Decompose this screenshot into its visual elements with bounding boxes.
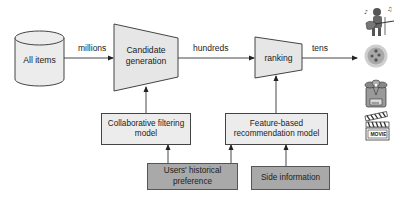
svg-text:♪: ♪ [364,8,368,15]
side-information-label: Side information [261,173,320,183]
musician-icon: ♪ ♫ [364,5,394,36]
users-history-line1: Users' historical [164,166,222,176]
collaborative-filtering-line1: Collaborative filtering [108,119,184,129]
food-dish-icon [365,45,388,68]
candidate-generation-label: Candidate generation [114,45,178,67]
svg-text:ooo: ooo [372,100,380,105]
feature-based-line1: Feature-based [234,119,320,129]
users-history-line2: preference [164,177,222,187]
candidate-generation-line2: generation [114,56,178,67]
ranking-label: ranking [255,53,302,64]
svg-text:♫: ♫ [387,5,392,12]
shopping-bag-icon: ooo [365,80,387,107]
collaborative-filtering-box: Collaborative filtering model [101,113,191,145]
users-history-box: Users' historical preference [147,163,238,190]
edge-label-millions: millions [78,43,106,53]
feature-based-box: Feature-based recommendation model [225,113,328,145]
edge-label-tens: tens [312,43,328,53]
side-information-box: Side information [251,166,330,190]
movie-clapboard-text: MOVIE [369,131,388,137]
edge-label-hundreds: hundreds [193,43,228,53]
collaborative-filtering-line2: model [108,129,184,139]
feature-based-line2: recommendation model [234,129,320,139]
all-items-label: All items [15,55,64,66]
candidate-generation-line1: Candidate [114,45,178,56]
